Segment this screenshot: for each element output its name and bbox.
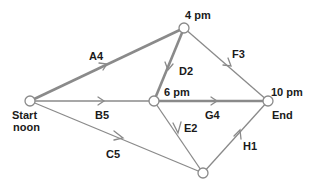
label-start: Start bbox=[12, 109, 37, 121]
label-g4: G4 bbox=[205, 109, 221, 121]
node-labels: Start noon 4 pm 6 pm 10 pm End bbox=[12, 9, 303, 133]
node-4pm bbox=[179, 23, 189, 33]
node-6pm bbox=[149, 96, 159, 106]
node-start bbox=[25, 96, 35, 106]
label-4pm: 4 pm bbox=[185, 9, 211, 21]
label-end: End bbox=[272, 109, 293, 121]
edge-c5 bbox=[30, 101, 203, 173]
label-b5: B5 bbox=[95, 109, 109, 121]
label-e2: E2 bbox=[184, 122, 197, 134]
label-6pm: 6 pm bbox=[164, 86, 190, 98]
label-10pm: 10 pm bbox=[271, 86, 303, 98]
label-d2: D2 bbox=[179, 65, 193, 77]
arrow-c5-icon bbox=[114, 131, 123, 140]
label-noon: noon bbox=[13, 121, 40, 133]
label-h1: H1 bbox=[243, 140, 257, 152]
label-c5: C5 bbox=[106, 148, 120, 160]
label-a4: A4 bbox=[89, 50, 104, 62]
node-bottom bbox=[198, 168, 208, 178]
activity-network-diagram: Start noon 4 pm 6 pm 10 pm End A4 B5 C5 … bbox=[0, 0, 314, 190]
edge-f3 bbox=[184, 28, 268, 101]
label-f3: F3 bbox=[232, 48, 245, 60]
arrowheads bbox=[98, 58, 241, 140]
